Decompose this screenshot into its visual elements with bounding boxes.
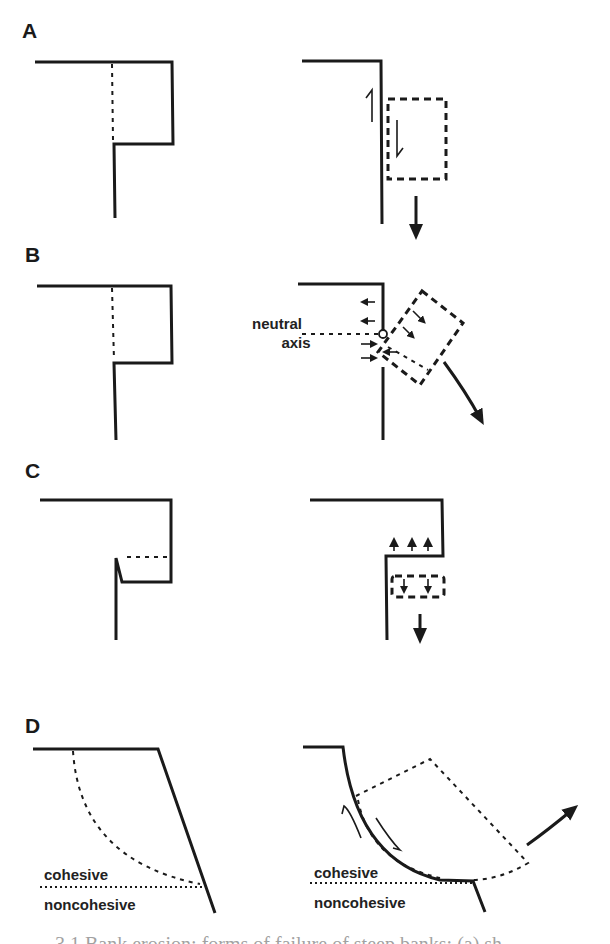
failed-slab-outline <box>392 576 444 597</box>
cohesive-label: cohesive <box>44 866 108 883</box>
neutral-axis-label-line1: neutral <box>252 315 302 332</box>
topple-arrow-icon <box>444 362 480 418</box>
panel-label-d: D <box>25 714 40 737</box>
figure-caption-truncated: ...3.1 Bank erosion: forms of failure of… <box>40 934 600 944</box>
bank-profile-upper <box>298 284 383 330</box>
neutral-axis-label-line2: axis <box>281 334 310 351</box>
noncohesive-label: noncohesive <box>44 896 136 913</box>
bank-profile <box>35 62 173 218</box>
rotation-arrow-icon <box>527 810 572 845</box>
panel-label-c: C <box>25 459 40 482</box>
panel-b-before <box>37 286 172 440</box>
slumped-block-outline <box>356 759 528 880</box>
bank-profile-after <box>302 61 382 224</box>
panel-c: C <box>25 459 444 640</box>
panel-a-after <box>302 61 446 232</box>
noncohesive-label: noncohesive <box>314 894 406 911</box>
panel-a: A <box>22 19 446 232</box>
block-stress-arrow-icon <box>403 327 412 336</box>
panel-c-before <box>40 500 171 640</box>
panel-a-before <box>35 62 173 218</box>
pivot-point-icon <box>379 330 387 338</box>
shear-arrow-down-icon <box>397 120 403 156</box>
failure-plane-dashed <box>112 64 113 140</box>
bank-profile-after <box>310 500 443 640</box>
bank-profile <box>40 500 171 640</box>
shear-arrow-up-icon <box>366 90 372 122</box>
panel-label-b: B <box>25 243 40 266</box>
block-stress-arrow-icon <box>413 311 423 321</box>
panel-d-before: cohesive noncohesive <box>33 749 215 913</box>
failure-plane-dashed <box>112 288 114 360</box>
bank-profile <box>37 286 172 440</box>
panel-c-after <box>310 500 444 640</box>
panel-d: D cohesive noncohesive cohesive noncohes… <box>25 714 572 913</box>
block-internal-dashed <box>388 347 428 370</box>
bank-failure-diagram: A B neutral axis <box>0 0 610 944</box>
panel-b: B neutral axis <box>25 243 480 440</box>
bank-profile <box>33 749 215 913</box>
panel-label-a: A <box>22 19 37 42</box>
cohesive-label: cohesive <box>314 864 378 881</box>
panel-b-after: neutral axis <box>252 284 480 440</box>
panel-d-after: cohesive noncohesive <box>303 747 572 912</box>
bank-profile-after <box>303 747 485 912</box>
